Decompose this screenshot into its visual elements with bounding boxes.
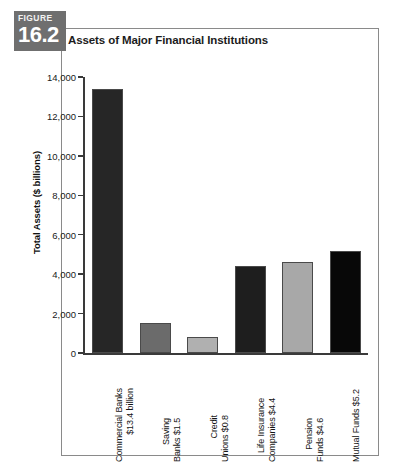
x-tick-label: SavingBanks $1.5: [161, 418, 182, 462]
y-axis-tick-labels: 02,0004,0006,0008,00010,00012,00014,000: [30, 0, 76, 472]
y-tick-label: 8,000: [30, 190, 76, 201]
bar-5: [330, 251, 361, 354]
y-tick-mark: [78, 116, 83, 118]
y-tick-mark: [78, 76, 83, 78]
bar-1: [140, 323, 171, 353]
x-tick-label-line1: Credit: [209, 415, 219, 438]
y-tick-label: 2,000: [30, 308, 76, 319]
bar-chart: Total Assets ($ billions) 02,0004,0006,0…: [0, 0, 393, 472]
x-tick-label-line1: Saving: [161, 418, 171, 445]
y-tick-label: 10,000: [30, 150, 76, 161]
y-tick-mark: [78, 234, 83, 236]
x-tick-label-line1: Pension: [304, 418, 314, 450]
x-tick-label-line1: Life Insurance: [256, 398, 266, 453]
y-tick-label: 14,000: [30, 72, 76, 83]
x-tick-label: Mutual Funds $5.2: [351, 389, 362, 462]
y-tick-mark: [78, 313, 83, 315]
bar-3: [235, 266, 266, 353]
x-axis-line: [83, 353, 368, 355]
y-tick-label: 6,000: [30, 229, 76, 240]
x-tick-label-line2: Funds $4.6: [314, 418, 325, 462]
y-tick-label: 12,000: [30, 111, 76, 122]
x-tick-label-line1: Commercial Banks: [114, 388, 124, 462]
y-tick-mark: [78, 195, 83, 197]
x-tick-label-line2: $13.4 billion: [124, 388, 135, 462]
x-tick-label: CreditUnions $0.8: [209, 415, 230, 462]
bars-layer: [84, 77, 369, 353]
figure-badge-number: 16.2: [18, 23, 66, 47]
x-tick-label-line2: Unions $0.8: [219, 415, 230, 462]
x-tick-label: Commercial Banks$13.4 billion: [114, 388, 135, 462]
y-tick-mark: [78, 352, 83, 354]
y-tick-mark: [78, 155, 83, 157]
x-tick-label-line2: Companies $4.4: [267, 398, 278, 462]
x-tick-label: Life InsuranceCompanies $4.4: [256, 398, 277, 462]
y-tick-label: 0: [30, 348, 76, 359]
x-tick-label-line2: Banks $1.5: [172, 418, 183, 462]
x-tick-label-line1: Mutual Funds $5.2: [351, 389, 361, 462]
bar-0: [92, 89, 123, 353]
bar-4: [282, 262, 313, 353]
y-tick-mark: [78, 273, 83, 275]
figure-badge: FIGURE 16.2: [14, 11, 66, 51]
x-tick-label: PensionFunds $4.6: [304, 418, 325, 462]
y-tick-label: 4,000: [30, 269, 76, 280]
bar-2: [187, 337, 218, 353]
x-axis-tick-labels: Commercial Banks$13.4 billionSavingBanks…: [84, 356, 369, 468]
